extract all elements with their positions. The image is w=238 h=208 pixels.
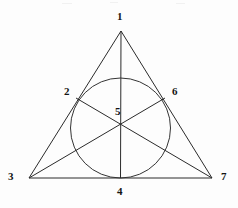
geometry-figure	[0, 0, 238, 208]
point-label-6: 6	[172, 86, 178, 97]
point-label-4: 4	[117, 186, 123, 197]
point-label-7: 7	[221, 171, 227, 182]
point-label-2: 2	[64, 86, 70, 97]
point-label-3: 3	[8, 171, 14, 182]
diagram-canvas: 1 2 3 4 5 6 7	[0, 0, 238, 208]
point-label-1: 1	[117, 11, 123, 22]
point-label-5: 5	[115, 106, 121, 117]
